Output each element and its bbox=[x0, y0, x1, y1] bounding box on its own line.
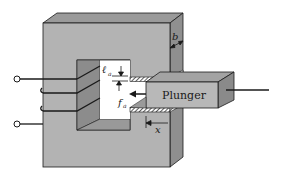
actuator-diagram: Plunger ℓ a f a x bbox=[0, 0, 288, 181]
gap-length-subscript: a bbox=[108, 70, 112, 77]
force-subscript: a bbox=[123, 102, 127, 109]
plunger-label: Plunger bbox=[162, 89, 207, 102]
depth-label: b bbox=[172, 31, 178, 42]
terminal-top bbox=[14, 76, 20, 82]
gap-length-label: ℓ bbox=[102, 64, 106, 75]
core-top-face bbox=[43, 13, 183, 23]
displacement-label: x bbox=[155, 124, 161, 135]
terminal-bottom bbox=[14, 121, 20, 127]
